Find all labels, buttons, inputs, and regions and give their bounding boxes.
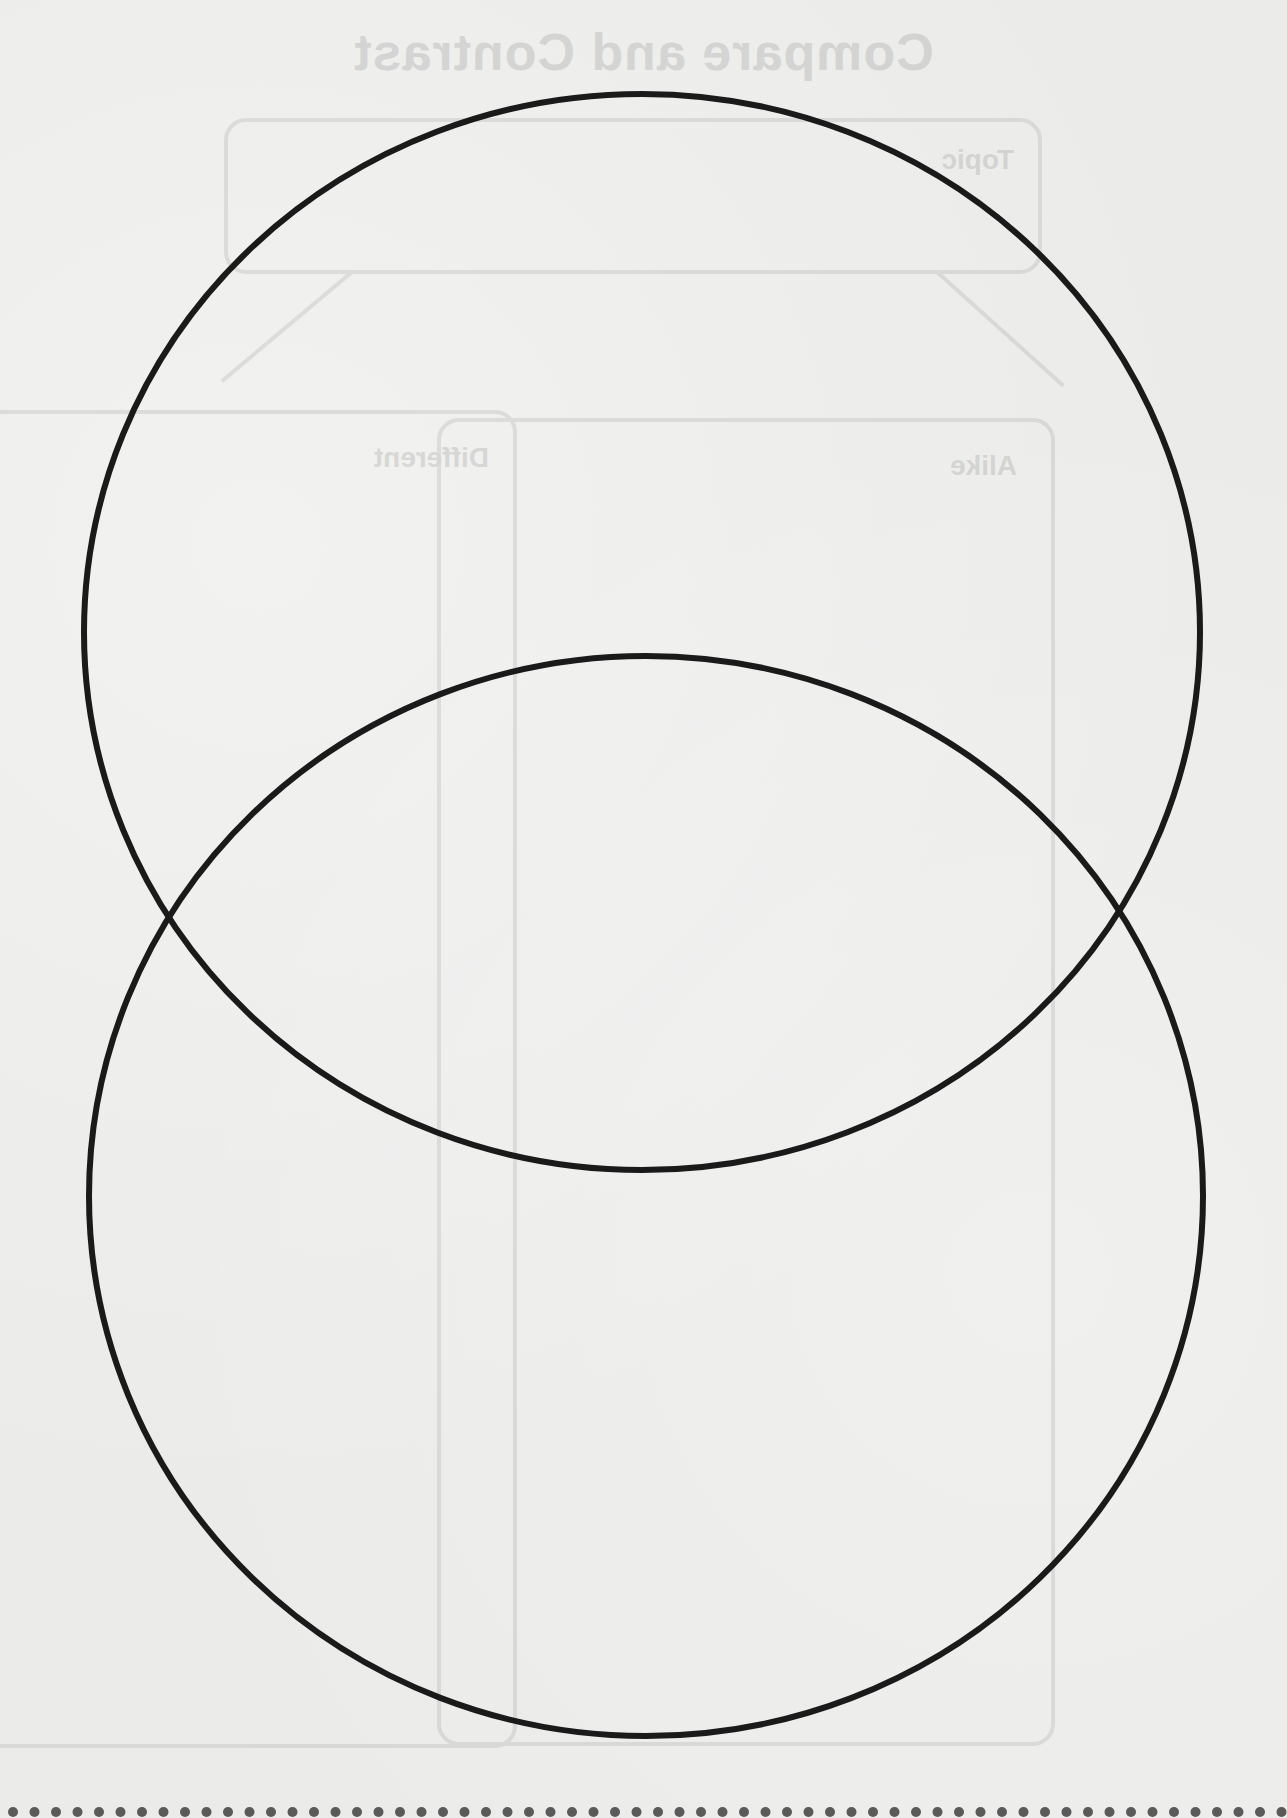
perforation-dot [825,1807,835,1817]
perforation-dot [503,1807,513,1817]
perforation-dot [309,1807,319,1817]
perforation-dot [417,1807,427,1817]
perforation-dot [94,1807,104,1817]
perforation-dot [653,1807,663,1817]
perforation-dot [1105,1807,1115,1817]
perforation-dot [202,1807,212,1817]
perforation-dot [911,1807,921,1817]
perforation-dot [1191,1807,1201,1817]
perforation-dot [1277,1807,1287,1817]
perforation-dot [1062,1807,1072,1817]
perforation-dot [438,1807,448,1817]
perforation-dot [546,1807,556,1817]
perforation-dot [30,1807,40,1817]
perforation-dot [804,1807,814,1817]
perforation-dot [976,1807,986,1817]
perforation-dot [266,1807,276,1817]
perforation-dot [739,1807,749,1817]
venn-diagram [0,0,1287,1818]
perforation-dot [1169,1807,1179,1817]
perforation-dot [1148,1807,1158,1817]
perforation-dot [137,1807,147,1817]
perforation-dot [718,1807,728,1817]
perforation-dot [8,1807,18,1817]
perforation-dot [1255,1807,1265,1817]
perforation-dot [524,1807,534,1817]
perforation-dot [1234,1807,1244,1817]
perforation-dot [245,1807,255,1817]
perforation-dot [1126,1807,1136,1817]
perforation-dot [847,1807,857,1817]
perforation-dot [761,1807,771,1817]
perforation-dots [0,1806,1287,1818]
perforation-dot [159,1807,169,1817]
perforation-dot [116,1807,126,1817]
perforation-dot [782,1807,792,1817]
perforation-dot [288,1807,298,1817]
perforation-dot [567,1807,577,1817]
perforation-dot [890,1807,900,1817]
perforation-dot [933,1807,943,1817]
perforation-dot [675,1807,685,1817]
perforation-dot [1040,1807,1050,1817]
perforation-dot [460,1807,470,1817]
perforation-dot [1019,1807,1029,1817]
perforation-dot [954,1807,964,1817]
perforation-dot [1212,1807,1222,1817]
perforation-dot [997,1807,1007,1817]
perforation-dot [374,1807,384,1817]
perforation-dot [1083,1807,1093,1817]
perforation-dot [610,1807,620,1817]
perforation-dot [868,1807,878,1817]
bottom-circle [89,656,1203,1736]
perforation-dot [395,1807,405,1817]
perforation-dot [589,1807,599,1817]
perforation-dot [481,1807,491,1817]
perforation-dot [352,1807,362,1817]
perforation-dot [331,1807,341,1817]
perforation-dot [73,1807,83,1817]
perforation-dot [180,1807,190,1817]
top-circle [84,94,1200,1170]
perforation-dot [51,1807,61,1817]
perforation-dot [632,1807,642,1817]
perforation-dot [223,1807,233,1817]
perforation-dot [696,1807,706,1817]
